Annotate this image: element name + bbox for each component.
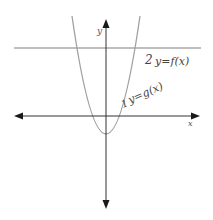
graph-canvas: y x 2 y=f(x) 1 y=g(x) — [0, 0, 213, 220]
x-axis-label: x — [188, 119, 193, 128]
x-axis-left-arrow-icon — [14, 113, 23, 120]
y-axis-down-arrow-icon — [103, 200, 110, 209]
curve-f-marker: 2 — [144, 53, 153, 67]
graph-diagram: y x 2 y=f(x) 1 y=g(x) — [0, 0, 213, 220]
y-axis-label: y — [96, 26, 103, 36]
curve-f-label: y=f(x) — [154, 55, 189, 68]
curve-g-label: y=g(x) — [125, 80, 165, 107]
y-axis-up-arrow-icon — [103, 19, 110, 28]
